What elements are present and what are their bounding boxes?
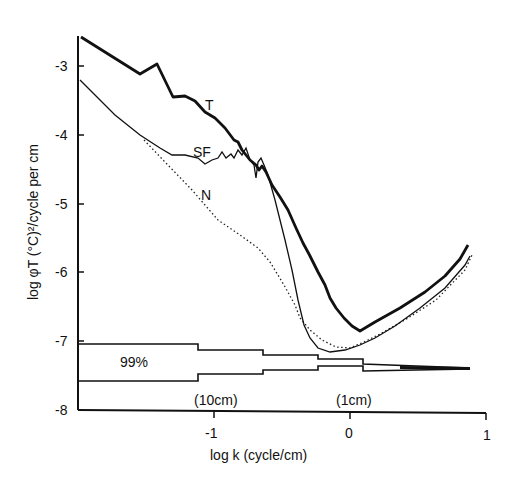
x-axis [78,410,486,413]
x-tick-label: 1 [483,427,491,443]
x-axis-title: log k (cycle/cm) [210,447,307,463]
y-axis-title: log φT (°C)²/cycle per cm [25,144,41,300]
x-tick-label: -1 [205,425,218,441]
curve-T [81,37,468,331]
spectrum-chart: -3 -4 -5 -6 -7 -8 -1 0 1 log k (cycle/cm… [0,0,520,485]
label-T: T [205,97,214,113]
label-SF: SF [193,144,211,160]
y-tick-label: -5 [55,196,68,212]
curve-N [144,140,472,348]
y-tick-label: -7 [55,333,68,349]
x-tick-label: 0 [345,425,353,441]
y-tick-label: -3 [55,58,68,74]
y-tick-label: -6 [55,264,68,280]
annotation-10cm: (10cm) [194,392,238,408]
y-tick-label: -8 [55,402,68,418]
band-label: 99% [120,354,148,370]
label-N: N [201,187,211,203]
annotation-1cm: (1cm) [336,392,372,408]
curve-SF [80,80,470,352]
y-tick-label: -4 [55,127,68,143]
